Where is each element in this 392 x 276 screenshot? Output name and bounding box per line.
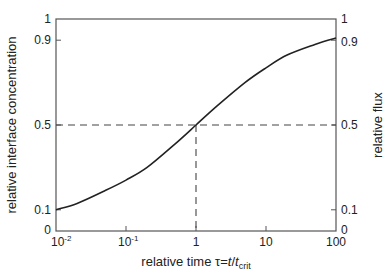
x-axis-label: relative time τ=t/tcrit [141,254,251,271]
x-tick-label-1: 1 [193,235,200,249]
y-right-tick-label-0.9: 0.9 [341,35,358,49]
y-left-tick-label-0.5: 0.5 [34,118,51,132]
x-tick-label-10: 10 [259,235,273,249]
y-left-tick-label-1: 1 [44,12,51,26]
y-right-tick-label-0.5: 0.5 [341,118,358,132]
x-tick-label-1e-1: 10-1 [118,234,139,249]
concentration-curve [56,38,336,210]
y-axis-label-right: relative flux [370,92,385,158]
x-tick-label-100: 100 [326,235,346,249]
y-right-tick-label-1: 1 [341,12,348,26]
y-axis-label-left: relative interface concentration [4,36,19,213]
y-left-tick-label-0.9: 0.9 [34,33,51,47]
y-right-tick-label-0.1: 0.1 [341,203,358,217]
y-left-tick-label-0.1: 0.1 [34,203,51,217]
chart-canvas: 1 0.9 0.5 0.1 0 1 0.9 0.5 0.1 0 10-2 10-… [0,0,392,276]
x-tick-label-1e-2: 10-2 [51,234,72,249]
